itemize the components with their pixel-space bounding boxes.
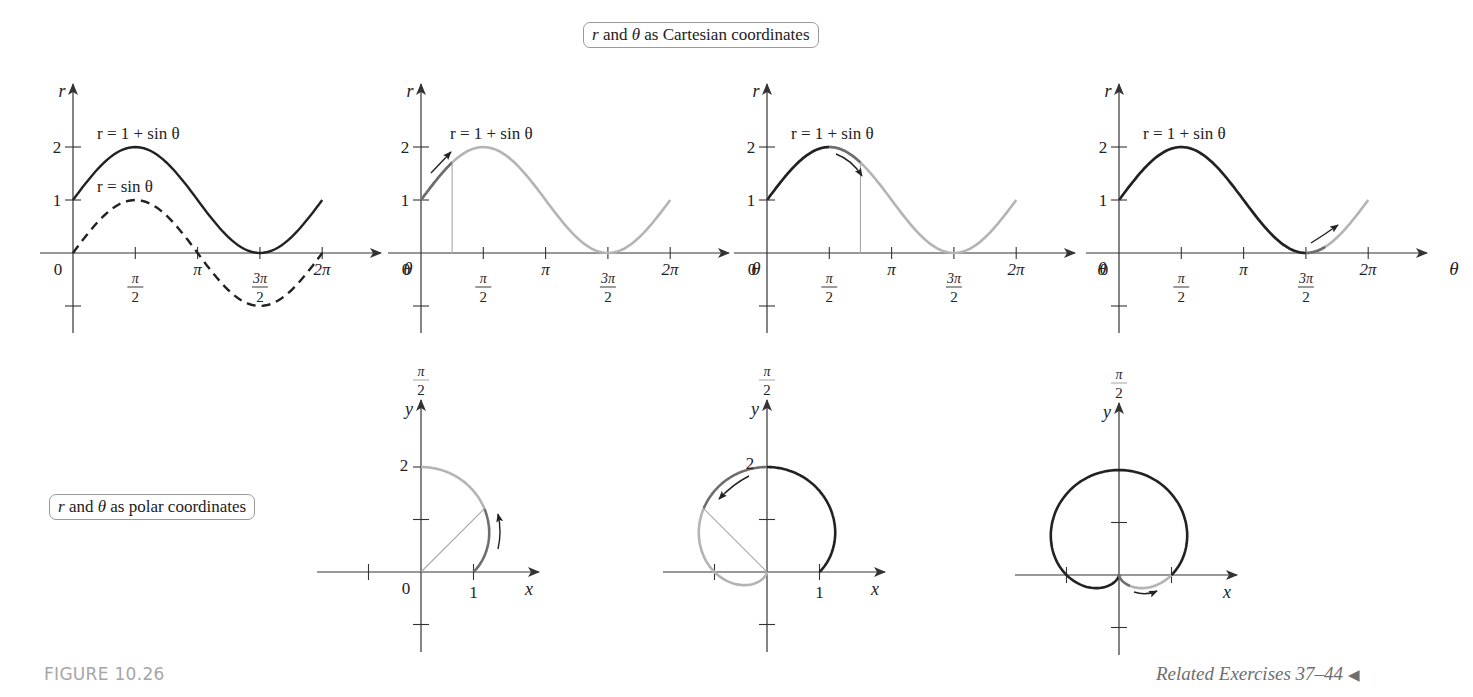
curve-one-plus-sin: [73, 147, 322, 253]
cartesian-panel-4: rθ210π2π3π22πr = 1 + sin θ: [1086, 81, 1459, 333]
tick-label-pi: π: [887, 260, 896, 279]
y-axis-label: y: [749, 399, 759, 419]
tick-label-denominator: 2: [480, 289, 488, 305]
tick-label-numerator: π: [480, 271, 488, 286]
cardioid-active-segment: [1119, 575, 1130, 586]
tick-label-numerator: π: [1178, 271, 1186, 286]
cardioid-untraced: [421, 467, 484, 509]
tick-label-2: 2: [747, 138, 756, 157]
tick-label-denominator: 2: [256, 289, 264, 305]
figure-canvas: rθ210π2π3π22πr = 1 + sin θr = sin θ rθ21…: [0, 0, 1473, 697]
tick-label-2pi: 2π: [313, 260, 331, 279]
tick-label-numerator: π: [132, 271, 140, 286]
curve-traced: [1119, 147, 1306, 253]
callout-text: as Cartesian coordinates: [640, 25, 809, 44]
tick-label-1: 1: [747, 191, 756, 210]
tick-label-pi: π: [541, 260, 550, 279]
tick-label-2pi: 2π: [1007, 260, 1025, 279]
cardioid-untraced: [1130, 575, 1172, 588]
radius-guide-line: [421, 509, 484, 572]
theta-axis-label: θ: [1449, 258, 1458, 279]
cartesian-panel-2: rθ210π2π3π22πr = 1 + sin θ: [388, 81, 761, 333]
curve-active-segment: [1306, 247, 1325, 253]
cartesian-callout: r and θ as Cartesian coordinates: [583, 22, 819, 48]
tick-label-0: 0: [402, 579, 411, 598]
tick-label-denominator: 2: [417, 382, 425, 398]
tick-label-numerator: π: [417, 364, 425, 379]
tick-label-numerator: 3π: [252, 271, 268, 286]
related-exercises-link[interactable]: Related Exercises 37–44 ◀: [1156, 663, 1360, 685]
tick-label-2: 2: [401, 138, 410, 157]
tick-label-2pi: 2π: [1359, 260, 1377, 279]
r-axis-label: r: [1104, 81, 1112, 101]
tick-label-numerator: 3π: [600, 271, 616, 286]
radius-guide-line: [704, 509, 767, 572]
tick-label-denominator: 2: [1115, 385, 1123, 401]
tick-label-0: 0: [1100, 260, 1109, 279]
tick-label-numerator: 3π: [946, 271, 962, 286]
r-axis-label: r: [406, 81, 414, 101]
tick-label-1: 1: [401, 191, 410, 210]
tick-label-2: 2: [746, 454, 755, 473]
figure-label: FIGURE 10.26: [44, 664, 165, 684]
tick-label-0: 0: [748, 260, 757, 279]
tick-label-denominator: 2: [950, 289, 958, 305]
polar-panel-1: π2yx201: [317, 364, 539, 652]
direction-arrow-icon: [1134, 591, 1157, 594]
cartesian-panel-1: rθ210π2π3π22πr = 1 + sin θr = sin θ: [40, 81, 413, 333]
direction-arrow-icon: [719, 476, 749, 499]
direction-arrow-icon: [431, 152, 451, 173]
callout-theta: θ: [98, 497, 106, 516]
equation-label: r = 1 + sin θ: [791, 124, 874, 143]
r-axis-label: r: [752, 81, 760, 101]
callout-text: as polar coordinates: [106, 497, 246, 516]
tick-label-numerator: π: [1115, 367, 1123, 382]
callout-text: and: [65, 497, 98, 516]
tick-label-1: 1: [53, 191, 62, 210]
tick-label-numerator: 3π: [1298, 271, 1314, 286]
callout-theta: θ: [632, 25, 640, 44]
polar-panel-3: π2yx: [1015, 367, 1237, 655]
cartesian-panel-3: rθ210π2π3π22πr = 1 + sin θ: [734, 81, 1107, 333]
curve-traced: [767, 147, 829, 200]
equation-label: r = 1 + sin θ: [450, 124, 533, 143]
related-exercises-text: Related Exercises 37–44: [1156, 663, 1343, 684]
tick-label-denominator: 2: [763, 382, 771, 398]
callout-r: r: [592, 25, 599, 44]
tick-label-2pi: 2π: [661, 260, 679, 279]
tick-label-pi: π: [193, 260, 202, 279]
cardioid-traced: [767, 467, 835, 572]
tick-label-numerator: π: [826, 271, 834, 286]
tick-label-numerator: π: [763, 364, 771, 379]
x-axis-label: x: [1222, 582, 1231, 602]
x-axis-label: x: [524, 579, 533, 599]
equation-label-full: r = 1 + sin θ: [97, 124, 180, 143]
direction-arrow-icon: [498, 514, 500, 549]
y-axis-label: y: [403, 399, 413, 419]
tick-label-2: 2: [53, 138, 62, 157]
polar-callout: r and θ as polar coordinates: [49, 494, 255, 520]
equation-label-sin: r = sin θ: [97, 177, 153, 196]
tick-label-denominator: 2: [1178, 289, 1186, 305]
tick-label-2: 2: [1099, 138, 1108, 157]
cardioid-active-segment: [704, 467, 767, 509]
callout-text: and: [599, 25, 632, 44]
tick-label-0: 0: [54, 260, 63, 279]
cardioid-active-segment: [474, 509, 490, 572]
tick-label-denominator: 2: [604, 289, 612, 305]
cardioid-untraced: [699, 509, 767, 585]
callout-r: r: [58, 497, 65, 516]
tick-label-2: 2: [400, 456, 409, 475]
x-axis-label: x: [870, 579, 879, 599]
tick-label-1: 1: [815, 583, 824, 602]
arrow-left-icon: ◀: [1348, 667, 1360, 683]
curve-untraced: [767, 147, 1016, 253]
equation-label: r = 1 + sin θ: [1143, 124, 1226, 143]
curve-active-segment: [829, 147, 860, 163]
y-axis-label: y: [1101, 402, 1111, 422]
polar-panel-2: π2yx21: [663, 364, 885, 652]
direction-arrow-icon: [836, 154, 862, 176]
tick-label-denominator: 2: [826, 289, 834, 305]
tick-label-1: 1: [1099, 191, 1108, 210]
tick-label-pi: π: [1239, 260, 1248, 279]
